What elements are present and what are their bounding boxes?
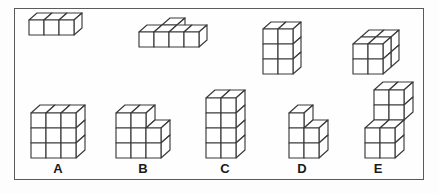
cube-face	[374, 90, 389, 105]
cube-face	[374, 105, 389, 120]
puzzle-root: ABCDE	[0, 0, 439, 193]
option-e-figure	[362, 79, 416, 161]
cube-face	[389, 105, 404, 120]
option-e[interactable]: E	[15, 9, 423, 179]
cube-face	[365, 128, 380, 143]
cube-face	[389, 90, 404, 105]
cube-face	[380, 128, 395, 143]
puzzle-frame: ABCDE	[14, 8, 424, 180]
cube-face	[380, 143, 395, 158]
cube-face	[365, 143, 380, 158]
option-label-e: E	[368, 162, 388, 175]
